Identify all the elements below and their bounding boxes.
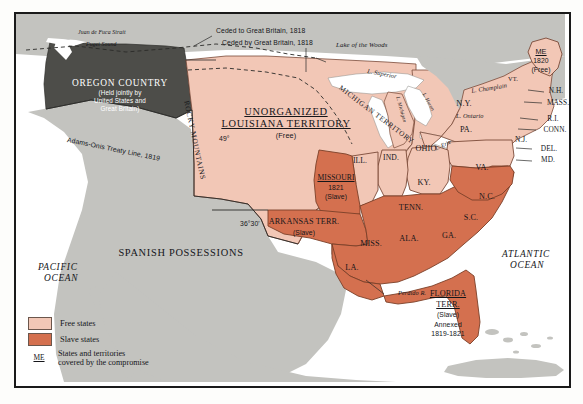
map-legend: Free states Slave states ME States and t…: [28, 317, 243, 371]
legend-key-text-group: States and territories covered by the co…: [58, 349, 149, 368]
ohio-region: [406, 146, 450, 194]
legend-key-line-1: States and territories: [58, 349, 149, 358]
legend-row-compromise-key: ME States and territories covered by the…: [28, 349, 243, 368]
legend-label-slave-states: Slave states: [60, 335, 99, 344]
map-frame: OREGON COUNTRY (Held jointly by United S…: [14, 12, 571, 388]
legend-swatch-slave-states: [28, 333, 52, 346]
pennsylvania-region: [446, 140, 514, 168]
legend-row-free-states: Free states: [28, 317, 243, 330]
legend-swatch-free-states: [28, 317, 52, 330]
legend-label-free-states: Free states: [60, 319, 96, 328]
legend-row-slave-states: Slave states: [28, 333, 243, 346]
map-root: OREGON COUNTRY (Held jointly by United S…: [0, 0, 583, 404]
legend-key-symbol: ME: [28, 353, 50, 362]
legend-key-line-2: covered by the compromise: [58, 358, 149, 367]
indiana-region: [378, 150, 408, 196]
